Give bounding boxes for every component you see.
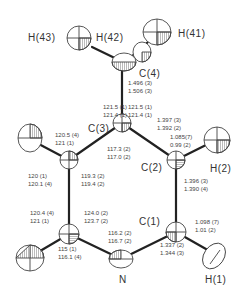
atom-c2 — [167, 151, 185, 169]
atom-h2 — [204, 127, 230, 153]
atom-c5 — [60, 151, 78, 169]
bond-length-c2-c1: 1.396 (3)1.390 (4) — [184, 178, 208, 193]
label-c1: C(1) — [139, 217, 160, 227]
label-h1: H(1) — [205, 275, 226, 285]
label-c4: C(4) — [139, 69, 160, 79]
atom-c4 — [112, 53, 136, 71]
label-c3: C(3) — [88, 124, 109, 134]
bond-length-c3-c2: 1.397 (3)1.392 (2) — [157, 117, 181, 132]
label-c2: C(2) — [141, 163, 162, 173]
angle-c6-left: 120.4 (4)121 (1) — [30, 210, 54, 225]
angle-c3-bottom: 117.3 (2)117.0 (2) — [107, 146, 131, 161]
label-n: N — [119, 275, 127, 285]
atom-h5 — [18, 124, 42, 152]
bond-length-c2-h2: 1.085(7)0.99 (2) — [170, 134, 192, 149]
atom-c6 — [59, 224, 79, 244]
label-h43: H(43) — [28, 33, 56, 43]
angle-c3-left-top: 121.5 (1)121.4 (1) — [103, 104, 127, 119]
angle-c5-left: 120 (1)120.1 (4) — [28, 173, 52, 188]
bond-length-c1-h1: 1.098 (7)1.01 (2) — [195, 219, 219, 234]
atom-c1 — [166, 222, 186, 242]
angle-n: 116.2 (2)116.7 (2) — [108, 230, 132, 245]
atom-n — [109, 250, 133, 268]
angle-c6-bottom: 115 (1)116.1 (4) — [58, 246, 82, 261]
label-h2: H(2) — [210, 164, 231, 174]
bond-length-c1-n: 1.337 (2)1.344 (3) — [160, 242, 184, 257]
angle-c5-top: 120.5 (4)121 (1) — [55, 132, 79, 147]
angle-c3-right-top: 121.5 (1)121.4 (1) — [128, 104, 152, 119]
angle-c6-right: 124.0 (2)123.7 (2) — [84, 210, 108, 225]
atom-h6 — [16, 245, 44, 271]
label-h41: H(41) — [178, 29, 206, 39]
label-h42: H(42) — [96, 33, 124, 43]
bond-length-c4-c3: 1.496 (3)1.506 (3) — [128, 80, 152, 95]
atom-h41 — [143, 19, 171, 45]
atom-h42 — [67, 26, 91, 50]
angle-c5-right: 119.3 (2)119.4 (2) — [81, 173, 105, 188]
atom-h1 — [198, 239, 230, 273]
